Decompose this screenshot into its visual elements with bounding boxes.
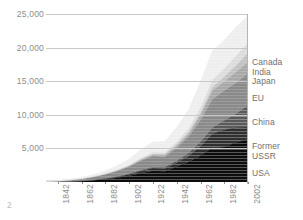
legend: CanadaIndiaJapanEUChinaFormerUSSRUSA (252, 0, 303, 220)
x-tick-label: 1962 (204, 184, 214, 204)
x-tick-label: 1862 (85, 184, 95, 204)
x-tick-label: 1942 (180, 184, 190, 204)
x-tick-mark (248, 182, 249, 184)
legend-item: EU (252, 94, 264, 104)
y-tick-label: 20,000 (17, 43, 44, 53)
y-tick-label: 25,000 (17, 9, 44, 19)
legend-item: Japan (252, 77, 276, 87)
x-tick-mark (82, 182, 83, 184)
y-tick-label: 10,000 (17, 110, 44, 120)
x-axis: 184218621882190219221942196219822002 (46, 182, 248, 220)
x-tick-label: 1922 (156, 184, 166, 204)
gridline (46, 14, 248, 15)
x-tick-mark (129, 182, 130, 184)
legend-item: China (252, 118, 275, 128)
gridline (46, 81, 248, 82)
area-series-svg (46, 14, 248, 182)
gridline (46, 115, 248, 116)
x-tick-mark (201, 182, 202, 184)
x-tick-mark (177, 182, 178, 184)
gridline (46, 48, 248, 49)
x-tick-mark (224, 182, 225, 184)
page-number: 2 (7, 200, 12, 210)
plot-area (46, 14, 248, 182)
x-tick-label: 1902 (133, 184, 143, 204)
x-tick-label: 1982 (228, 184, 238, 204)
x-tick-label: 1842 (61, 184, 71, 204)
legend-item: USA (252, 169, 270, 179)
x-tick-mark (105, 182, 106, 184)
y-axis: 5,00010,00015,00020,00025,000 (0, 0, 44, 220)
stacked-area-chart-figure: 5,00010,00015,00020,00025,000 1842186218… (0, 0, 303, 220)
legend-item: USSR (252, 152, 276, 162)
x-tick-mark (58, 182, 59, 184)
gridline (46, 148, 248, 149)
right-axis-rule (247, 14, 248, 184)
x-tick-mark (153, 182, 154, 184)
y-tick-label: 5,000 (22, 143, 44, 153)
y-tick-label: 15,000 (17, 76, 44, 86)
x-tick-label: 1882 (109, 184, 119, 204)
